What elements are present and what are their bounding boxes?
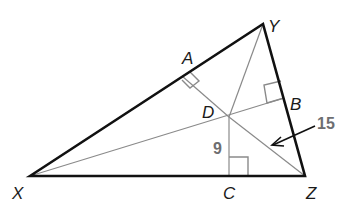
segment-DZ	[229, 117, 305, 176]
label-C: C	[223, 184, 236, 203]
segment-YD	[229, 24, 263, 117]
right-angle-marks	[182, 72, 284, 176]
label-Y: Y	[268, 17, 281, 36]
label-X: X	[11, 184, 24, 203]
right-angle-mark-C	[229, 157, 248, 176]
label-B: B	[290, 95, 301, 114]
interior-lines	[30, 24, 305, 176]
segment-XB	[30, 98, 284, 176]
label-D: D	[202, 103, 214, 122]
label-A: A	[181, 49, 193, 68]
measure-DC: 9	[213, 140, 222, 157]
measure-DZ: 15	[317, 115, 335, 132]
triangle-XYZ	[30, 24, 305, 176]
geometry-diagram: A Y B D C Z X 9 15	[0, 0, 353, 206]
label-Z: Z	[305, 184, 317, 203]
arrow-15	[272, 126, 315, 146]
